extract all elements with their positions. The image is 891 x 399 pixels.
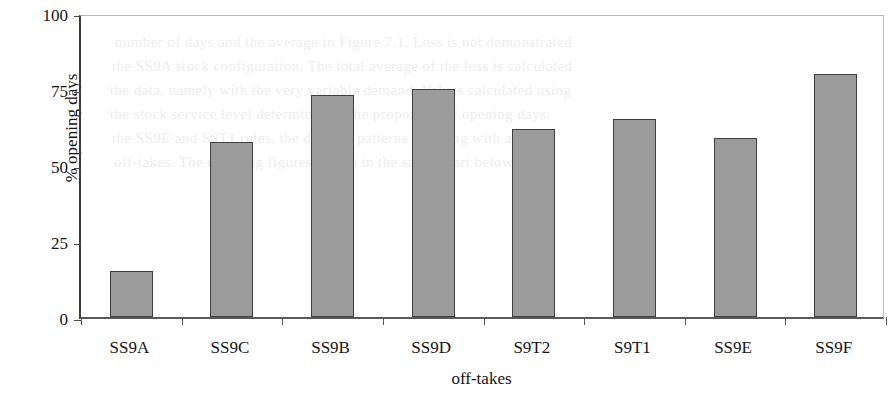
y-axis-tick-label: 25 xyxy=(14,235,68,252)
x-axis-tick xyxy=(484,317,485,325)
bar xyxy=(110,271,153,317)
y-axis-tick xyxy=(74,244,81,245)
y-axis-tick-label: 50 xyxy=(14,159,68,176)
y-axis-tick-label: 100 xyxy=(14,7,68,24)
y-axis-tick xyxy=(74,92,81,93)
bar xyxy=(814,74,857,317)
x-axis-tick xyxy=(282,317,283,325)
x-axis-tick xyxy=(81,317,82,325)
bar xyxy=(512,129,555,317)
bar xyxy=(714,138,757,317)
bar xyxy=(412,89,455,317)
x-axis-tick xyxy=(685,317,686,325)
x-axis-tick-label: SS9F xyxy=(774,339,891,356)
x-axis-tick xyxy=(383,317,384,325)
y-axis-tick xyxy=(74,16,81,17)
bar xyxy=(210,142,253,317)
x-axis-title: off-takes xyxy=(79,369,884,389)
y-axis-tick xyxy=(74,168,81,169)
x-axis-tick xyxy=(584,317,585,325)
x-axis-tick xyxy=(182,317,183,325)
x-axis-tick xyxy=(785,317,786,325)
y-axis-tick-label: 75 xyxy=(14,83,68,100)
bar xyxy=(311,95,354,317)
x-axis-tick xyxy=(886,317,887,325)
y-axis-tick xyxy=(74,320,81,321)
y-axis-tick-label: 0 xyxy=(14,311,68,328)
bar xyxy=(613,119,656,317)
plot-area xyxy=(79,15,884,319)
